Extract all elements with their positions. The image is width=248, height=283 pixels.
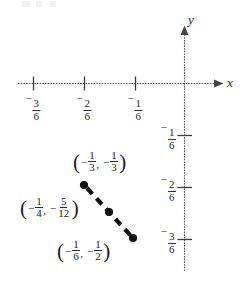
minus-sign: − <box>81 156 87 168</box>
fraction: 26 <box>168 180 176 203</box>
minus-sign: − <box>161 173 167 185</box>
y-axis-name: y <box>188 12 194 28</box>
y-tick-label-2: −26 <box>156 173 176 203</box>
minus-sign: − <box>65 245 71 257</box>
fraction: 12 <box>94 239 102 262</box>
fraction-denominator: 6 <box>72 251 80 262</box>
fraction-numerator: 2 <box>84 98 92 110</box>
fraction-numerator: 2 <box>168 180 176 192</box>
fraction: 13 <box>88 150 96 173</box>
data-point <box>129 234 137 242</box>
x-tick-label-3: −16 <box>127 92 142 122</box>
minus-sign: − <box>87 245 93 257</box>
fraction-numerator: 1 <box>135 98 143 110</box>
fraction-denominator: 3 <box>88 162 96 173</box>
plot-canvas <box>0 0 248 283</box>
minus-sign: − <box>25 92 31 104</box>
y-tick-label-3: −36 <box>156 225 176 255</box>
point-label-2: ( −14, −512 ) <box>20 196 79 219</box>
fraction: 36 <box>33 98 41 121</box>
fraction-denominator: 6 <box>135 111 143 122</box>
y-axis <box>181 26 189 272</box>
fraction: 16 <box>168 128 176 151</box>
fraction-denominator: 6 <box>33 111 41 122</box>
fraction-denominator: 4 <box>35 208 43 219</box>
point-label-1: ( −13, −13 ) <box>73 150 126 173</box>
fraction-denominator: 6 <box>168 140 176 151</box>
fraction: 14 <box>35 196 43 219</box>
fraction-denominator: 6 <box>84 111 92 122</box>
fraction: 26 <box>84 98 92 121</box>
y-axis-name-text: y <box>188 12 194 27</box>
data-point <box>105 208 113 216</box>
x-axis-name: x <box>227 75 233 91</box>
fraction-numerator: 3 <box>33 98 41 110</box>
minus-sign: − <box>161 121 167 133</box>
fraction: 13 <box>110 150 118 173</box>
minus-sign: − <box>103 156 109 168</box>
minus-sign: − <box>28 202 34 214</box>
minus-sign: − <box>76 92 82 104</box>
fraction: 16 <box>135 98 143 121</box>
comma: , <box>43 204 46 216</box>
fraction-denominator: 6 <box>168 192 176 203</box>
fraction: 36 <box>168 232 176 255</box>
comma: , <box>96 158 99 170</box>
point-label-3: ( −16, −12 ) <box>57 239 110 262</box>
fraction: 16 <box>72 239 80 262</box>
coordinate-plane-figure: x y −36 −26 −16 −16 −26 −36 ( −13, −13 )… <box>0 0 248 283</box>
minus-sign: − <box>127 92 133 104</box>
x-tick-label-2: −26 <box>76 92 91 122</box>
fraction-denominator: 12 <box>57 208 70 219</box>
minus-sign: − <box>50 202 56 214</box>
comma: , <box>80 247 83 259</box>
data-point <box>80 181 88 189</box>
fraction-numerator: 1 <box>168 128 176 140</box>
y-tick-label-1: −16 <box>156 121 176 151</box>
fraction-denominator: 2 <box>94 251 102 262</box>
x-axis-name-text: x <box>227 75 233 90</box>
fraction-denominator: 6 <box>168 244 176 255</box>
fraction-numerator: 3 <box>168 232 176 244</box>
fraction: 512 <box>57 196 70 219</box>
fraction-denominator: 3 <box>110 162 118 173</box>
minus-sign: − <box>161 225 167 237</box>
x-tick-label-1: −36 <box>25 92 40 122</box>
x-axis <box>18 80 224 88</box>
